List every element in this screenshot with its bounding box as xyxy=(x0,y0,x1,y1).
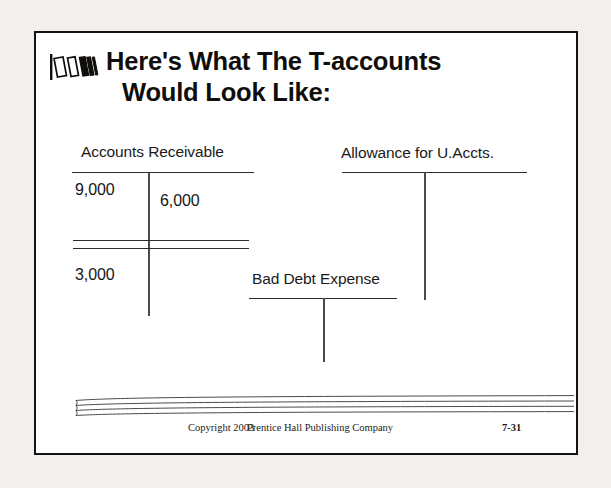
slide-footer: Copyright 2003 Prentice Hall Publishing … xyxy=(36,422,576,442)
t-account-center-line-bad-debt-expense xyxy=(323,298,325,362)
slide-frame: Here's What The T-accountsWould Look Lik… xyxy=(34,31,578,455)
t-account-bad-debt-expense: Bad Debt Expense xyxy=(36,33,576,453)
slide-number: 7-31 xyxy=(502,422,521,433)
publisher-text: Prentice Hall Publishing Company xyxy=(247,422,393,433)
footer-swoosh-decoration xyxy=(74,395,574,421)
t-account-title-bad-debt-expense: Bad Debt Expense xyxy=(252,270,380,288)
slide-content: Here's What The T-accountsWould Look Lik… xyxy=(36,33,576,453)
copyright-text: Copyright 2003 xyxy=(188,422,254,433)
